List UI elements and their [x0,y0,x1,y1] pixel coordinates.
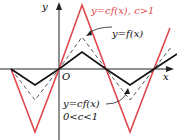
y-axis-label: y [42,1,48,12]
stretch-curve-label: y=cf(x), c>1 [91,5,154,16]
original-curve-label: y=f(x) [112,28,143,39]
arrowhead-icon [124,88,130,94]
y-axis-arrow-icon [56,2,62,10]
compress-curve-label: y=cf(x) [63,98,100,109]
arrowhead-icon [86,30,92,36]
compress-condition-label: 0<c<1 [63,111,98,122]
origin-label: O [62,71,70,82]
x-axis-label: x [163,71,169,82]
